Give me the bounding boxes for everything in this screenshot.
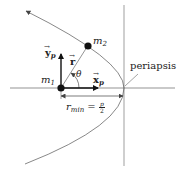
- periapsis-leader: [125, 74, 138, 86]
- fraction-p-over-2: p2: [99, 101, 105, 114]
- label-r-min: rmin = p2: [66, 101, 105, 114]
- y-p-arrow-accent: →: [44, 44, 50, 51]
- label-m1: m1: [41, 75, 55, 87]
- label-m2: m2: [93, 36, 107, 48]
- label-periapsis: periapsis: [130, 61, 176, 71]
- r-arrow-accent: →: [69, 53, 75, 60]
- mass-m1: [57, 84, 64, 91]
- orbit-diagram: m2 m1 yp → r → θ xp → periapsis rmin = p…: [0, 0, 183, 177]
- label-theta: θ: [76, 70, 81, 79]
- diagram-canvas: [0, 0, 183, 177]
- x-p-arrow-accent: →: [93, 71, 99, 78]
- mass-m2: [84, 42, 91, 49]
